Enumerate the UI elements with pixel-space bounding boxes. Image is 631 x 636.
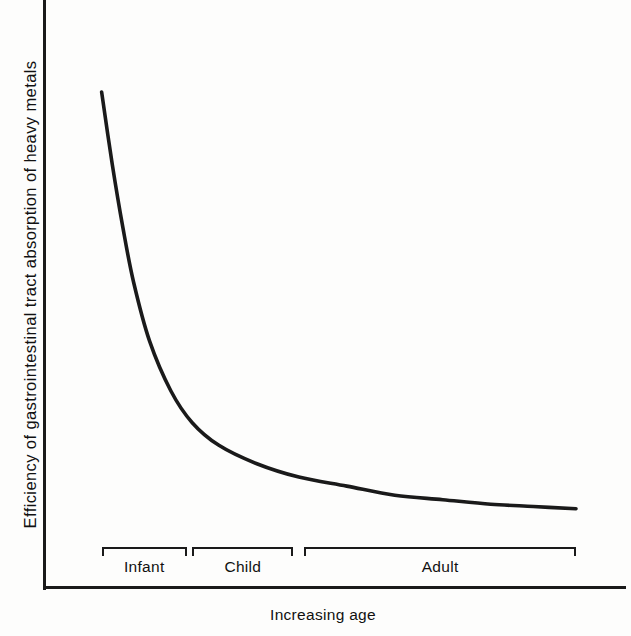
x-axis-title: Increasing age: [43, 606, 603, 624]
chart-figure: Efficiency of gastrointestinal tract abs…: [0, 0, 631, 636]
bracket-label-infant: Infant: [102, 558, 187, 576]
age-group-bracket-child: Child: [192, 547, 293, 583]
bracket-label-child: Child: [192, 558, 293, 576]
bracket-shape-adult: [304, 547, 576, 556]
y-axis-title: Efficiency of gastrointestinal tract abs…: [21, 5, 40, 585]
age-group-bracket-infant: Infant: [102, 547, 187, 583]
bracket-shape-child: [192, 547, 293, 556]
decay-curve-plot: [0, 0, 631, 636]
absorption-efficiency-curve: [102, 92, 576, 509]
bracket-label-adult: Adult: [304, 558, 576, 576]
age-group-bracket-adult: Adult: [304, 547, 576, 583]
bracket-shape-infant: [102, 547, 187, 556]
